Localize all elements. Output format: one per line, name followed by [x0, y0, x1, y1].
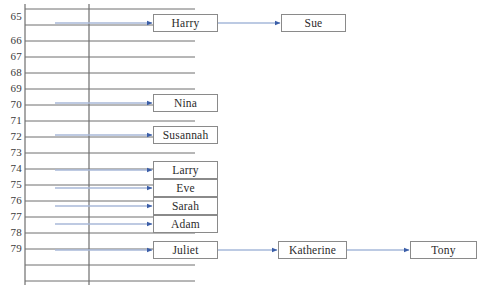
node-label-susannah: Susannah [163, 129, 209, 141]
row-number-66: 66 [2, 34, 22, 47]
node-box-juliet: Juliet [153, 241, 218, 259]
row-number-75: 75 [2, 178, 22, 191]
row-number-74: 74 [2, 162, 22, 175]
node-label-sue: Sue [305, 17, 323, 29]
row-number-72: 72 [2, 130, 22, 143]
node-label-adam: Adam [171, 218, 200, 230]
hash-table-diagram: 656667686970717273747576777879 HarrySueN… [0, 0, 484, 299]
node-box-harry: Harry [153, 14, 218, 32]
node-box-tony: Tony [410, 241, 477, 259]
node-label-katherine: Katherine [289, 244, 336, 256]
row-number-67: 67 [2, 50, 22, 63]
node-box-eve: Eve [153, 179, 218, 197]
row-number-78: 78 [2, 226, 22, 239]
row-number-76: 76 [2, 194, 22, 207]
node-box-sarah: Sarah [153, 197, 218, 215]
node-label-larry: Larry [172, 164, 199, 176]
node-label-tony: Tony [431, 244, 455, 256]
row-number-73: 73 [2, 146, 22, 159]
node-label-nina: Nina [174, 97, 197, 109]
row-number-79: 79 [2, 242, 22, 255]
row-number-77: 77 [2, 210, 22, 223]
node-label-harry: Harry [172, 17, 200, 29]
row-number-70: 70 [2, 98, 22, 111]
node-label-sarah: Sarah [172, 200, 199, 212]
node-box-nina: Nina [153, 94, 218, 112]
node-box-katherine: Katherine [278, 241, 347, 259]
row-number-69: 69 [2, 82, 22, 95]
node-box-susannah: Susannah [153, 126, 218, 144]
node-box-larry: Larry [153, 161, 218, 179]
row-number-71: 71 [2, 114, 22, 127]
node-label-eve: Eve [176, 182, 194, 194]
row-number-68: 68 [2, 66, 22, 79]
row-number-65: 65 [2, 10, 22, 23]
node-link-arrows [218, 23, 409, 250]
node-box-adam: Adam [153, 215, 218, 233]
node-box-sue: Sue [281, 14, 346, 32]
node-label-juliet: Juliet [172, 244, 198, 256]
